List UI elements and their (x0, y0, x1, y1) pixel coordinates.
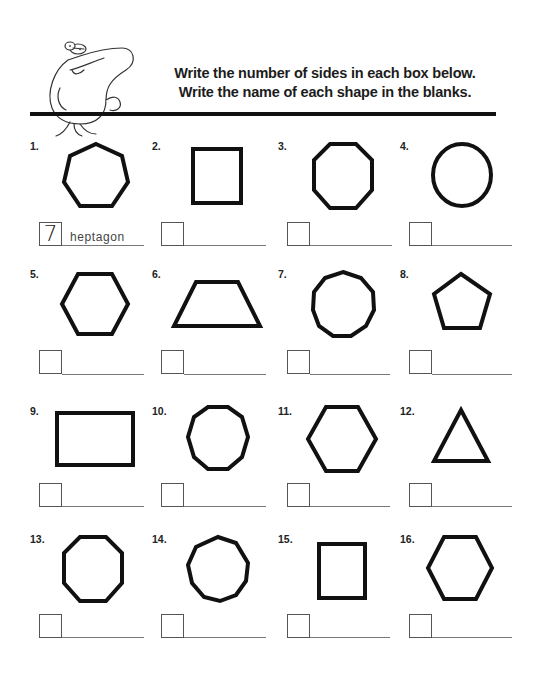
sides-answer-box[interactable] (409, 614, 432, 638)
problem-13: 13. (30, 533, 152, 661)
decagon-shape-icon (184, 403, 252, 473)
heptagon-shape-icon (60, 140, 132, 212)
problem-12: 12. (400, 405, 522, 533)
nonagon-shape-icon (184, 533, 252, 605)
problem-number: 10. (152, 405, 167, 417)
shape-name-blank[interactable] (310, 245, 392, 246)
shape-name-blank[interactable] (62, 245, 144, 246)
problem-10: 10. (152, 405, 274, 533)
octagon-shape-icon (310, 140, 376, 212)
problem-8: 8. (400, 268, 522, 396)
sides-answer-box[interactable] (287, 222, 310, 246)
sides-answer-box[interactable] (409, 483, 432, 507)
problem-4: 4. (400, 140, 522, 268)
problem-number: 6. (152, 268, 161, 280)
shape-name-blank[interactable] (184, 245, 266, 246)
problem-6: 6. (152, 268, 274, 396)
sides-answer-box[interactable] (161, 222, 184, 246)
problem-number: 8. (400, 268, 409, 280)
triangle-shape-icon (431, 405, 493, 467)
problem-number: 9. (30, 405, 39, 417)
problem-5: 5. (30, 268, 152, 396)
sides-answer-box[interactable]: 7 (39, 222, 62, 246)
instruction-line-1: Write the number of sides in each box be… (150, 64, 500, 83)
problem-number: 13. (30, 533, 45, 545)
shape-name-blank[interactable] (184, 637, 266, 638)
problem-number: 2. (152, 140, 161, 152)
shape-name-blank[interactable] (432, 374, 512, 375)
sides-answer-box[interactable] (409, 222, 432, 246)
problem-number: 5. (30, 268, 39, 280)
problem-number: 11. (278, 405, 292, 417)
hexagon-shape-icon (58, 270, 132, 338)
problem-number: 7. (278, 268, 287, 280)
problem-number: 3. (278, 140, 287, 152)
shape-name-blank[interactable] (432, 245, 512, 246)
shape-name-blank[interactable] (432, 506, 512, 507)
problem-11: 11. (278, 405, 400, 533)
octagon-shape-icon (60, 533, 126, 605)
hexagon-shape-icon (304, 403, 380, 475)
instructions: Write the number of sides in each box be… (150, 64, 500, 102)
sides-answer-box[interactable] (287, 614, 310, 638)
instruction-line-2: Write the name of each shape in the blan… (150, 83, 500, 102)
rectangle-shape-icon (54, 410, 136, 468)
nonagon-shape-icon (310, 268, 378, 340)
pentagon-shape-icon (430, 270, 494, 334)
problem-14: 14. (152, 533, 274, 661)
sides-answer-box[interactable] (39, 483, 62, 507)
sides-answer-box[interactable] (39, 614, 62, 638)
shape-name-blank[interactable] (310, 506, 390, 507)
shape-name-blank[interactable] (62, 637, 144, 638)
problem-number: 12. (400, 405, 415, 417)
problem-15: 15. (278, 533, 400, 661)
problem-number: 4. (400, 140, 409, 152)
shape-name-blank[interactable] (184, 374, 266, 375)
header-divider (30, 112, 496, 116)
sides-answer-box[interactable] (409, 350, 432, 374)
square-shape-icon (190, 146, 246, 206)
problem-number: 16. (400, 533, 415, 545)
problem-9: 9. (30, 405, 152, 533)
problem-16: 16. (400, 533, 522, 661)
shape-name-blank[interactable] (62, 374, 144, 375)
problem-number: 15. (278, 533, 293, 545)
sides-answer-box[interactable] (39, 350, 62, 374)
shape-name-answer[interactable]: heptagon (70, 230, 125, 244)
trapezoid-shape-icon (170, 278, 264, 330)
problem-1: 1. 7 heptagon (30, 140, 152, 268)
problem-number: 14. (152, 533, 167, 545)
problem-3: 3. (278, 140, 400, 268)
shape-name-blank[interactable] (184, 506, 266, 507)
shape-name-blank[interactable] (310, 374, 390, 375)
rectangle-shape-icon (316, 541, 368, 601)
circle-shape-icon (430, 140, 496, 210)
shape-name-blank[interactable] (310, 637, 390, 638)
problem-7: 7. (278, 268, 400, 396)
sides-answer-box[interactable] (287, 350, 310, 374)
sides-answer-box[interactable] (161, 350, 184, 374)
shape-name-blank[interactable] (432, 637, 512, 638)
problem-number: 1. (30, 140, 39, 152)
sides-answer-box[interactable] (287, 483, 310, 507)
shape-name-blank[interactable] (62, 506, 144, 507)
sides-answer-box[interactable] (161, 614, 184, 638)
problem-2: 2. (152, 140, 274, 268)
sides-answer-box[interactable] (161, 483, 184, 507)
hexagon-shape-icon (424, 533, 496, 603)
frog-mascot-illustration (40, 30, 140, 138)
